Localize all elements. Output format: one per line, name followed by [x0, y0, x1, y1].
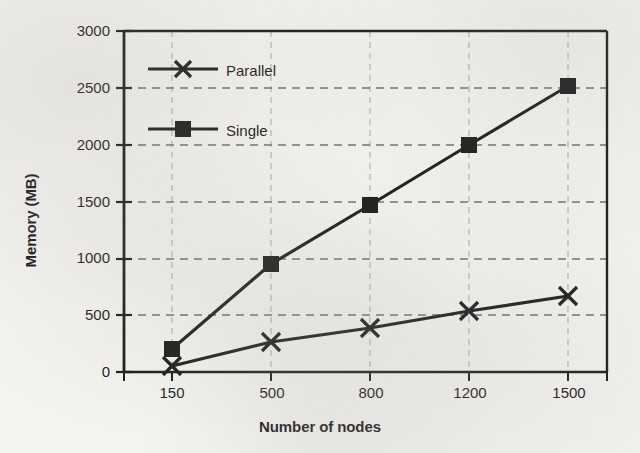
- y-tick-label-1000: 1000: [40, 249, 110, 266]
- x-axis-ticks: [124, 372, 607, 381]
- y-tick-label-500: 500: [40, 306, 110, 323]
- x-tick-label-150: 150: [132, 384, 212, 401]
- x-tick-label-800: 800: [331, 384, 411, 401]
- y-tick-label-3000: 3000: [40, 22, 110, 39]
- x-tick-label-1200: 1200: [430, 384, 510, 401]
- y-tick-label-0: 0: [40, 363, 110, 380]
- y-tick-label-2000: 2000: [40, 136, 110, 153]
- legend-label-parallel: Parallel: [226, 62, 276, 79]
- legend-sample-parallel: [148, 61, 218, 77]
- legend-sample-single: [148, 121, 218, 137]
- x-tick-label-1500: 1500: [529, 384, 609, 401]
- legend-label-single: Single: [226, 122, 268, 139]
- y-tick-label-1500: 1500: [40, 193, 110, 210]
- x-tick-label-500: 500: [232, 384, 312, 401]
- y-axis-title: Memory (MB): [22, 146, 39, 296]
- chart-figure: Number of nodes Memory (MB) 3000 2500 20…: [0, 0, 640, 453]
- x-axis-title: Number of nodes: [0, 418, 640, 435]
- y-tick-label-2500: 2500: [40, 79, 110, 96]
